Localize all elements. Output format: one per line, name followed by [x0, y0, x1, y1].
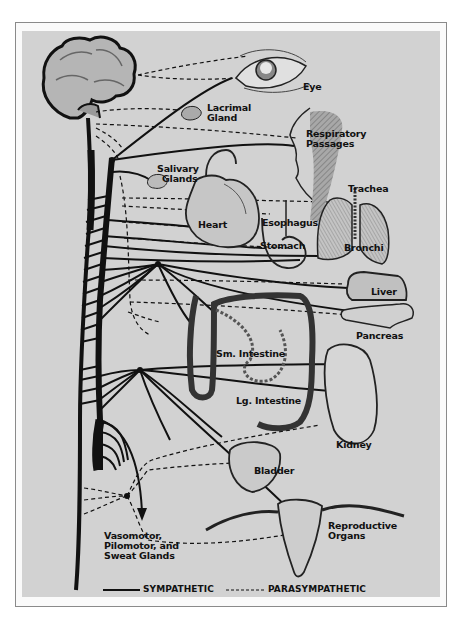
label-gland: Gland [207, 113, 237, 123]
label-passages: Passages [306, 139, 354, 149]
reproductive-organs-illustration [206, 500, 404, 577]
label-sweat-glands: Sweat Glands [104, 551, 175, 561]
brain-illustration [43, 37, 135, 118]
label-esophagus: Esophagus [262, 218, 318, 228]
label-pancreas: Pancreas [356, 331, 403, 341]
spinal-cord [76, 118, 92, 590]
label-liver: Liver [371, 287, 397, 297]
label-large-intestine: Lg. Intestine [236, 396, 301, 406]
pancreas-illustration [341, 304, 413, 328]
nervous-system-diagram [0, 0, 461, 625]
label-kidney: Kidney [336, 440, 372, 450]
arrow-head-icon [137, 508, 147, 521]
intestines-illustration [190, 295, 313, 428]
label-bronchi: Bronchi [344, 243, 383, 253]
eye-illustration [236, 50, 310, 93]
label-eye: Eye [303, 82, 322, 92]
label-bladder: Bladder [254, 466, 294, 476]
lacrimal-gland-illustration [181, 106, 201, 120]
stomach-illustration [262, 200, 306, 268]
label-small-intestine: Sm. Intestine [216, 349, 285, 359]
legend-parasympathetic: PARASYMPATHETIC [268, 584, 366, 594]
label-heart: Heart [198, 220, 227, 230]
label-organs: Organs [328, 531, 365, 541]
label-glands: Glands [162, 174, 197, 184]
legend-sympathetic: SYMPATHETIC [143, 584, 214, 594]
label-trachea: Trachea [348, 184, 388, 194]
kidney-illustration [325, 345, 377, 444]
label-stomach: Stomach [260, 241, 305, 251]
